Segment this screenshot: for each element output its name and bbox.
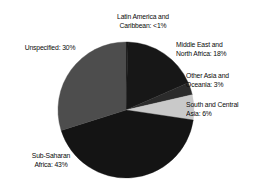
pie-chart: Latin America and Caribbean: <1% Middle …: [0, 0, 270, 194]
slice-label-unspecified: Unspecified: 30%: [9, 43, 91, 52]
slice-label-middle-east: Middle East and North Africa: 18%: [176, 40, 262, 58]
slice-label-sub-saharan-africa: Sub-Saharan Africa: 43%: [11, 151, 91, 169]
slice-label-latin-america: Latin America and Caribbean: <1%: [103, 12, 183, 30]
slice-label-other-asia: Other Asia and Oceania: 3%: [186, 71, 262, 89]
slice-label-south-central-asia: South and Central Asia: 6%: [186, 100, 264, 118]
